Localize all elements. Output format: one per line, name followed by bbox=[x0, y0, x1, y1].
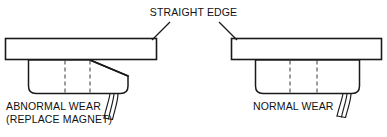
panel-normal-wear: NORMAL WEAR bbox=[232, 39, 382, 118]
magnet-body-right bbox=[256, 60, 360, 94]
straight-edge-bar-left bbox=[6, 39, 157, 60]
label-normal-wear: NORMAL WEAR bbox=[253, 100, 334, 112]
magnet-wear-diagram: STRAIGHT EDGE ABNORMAL WEAR (REPLACE MAG… bbox=[0, 0, 387, 137]
leader-line-right bbox=[219, 22, 237, 40]
diagram-title: STRAIGHT EDGE bbox=[150, 6, 238, 18]
panel-abnormal-wear: ABNORMAL WEAR (REPLACE MAGNET) bbox=[6, 39, 157, 126]
leader-line-left bbox=[152, 22, 170, 40]
magnet-body-left bbox=[29, 60, 129, 94]
label-abnormal-wear-line2: (REPLACE MAGNET) bbox=[6, 113, 112, 125]
magnet-wire-right-tip bbox=[337, 116, 346, 118]
label-abnormal-wear-line1: ABNORMAL WEAR bbox=[6, 100, 101, 112]
straight-edge-bar-right bbox=[232, 39, 382, 60]
diagram-canvas: STRAIGHT EDGE ABNORMAL WEAR (REPLACE MAG… bbox=[0, 0, 387, 137]
